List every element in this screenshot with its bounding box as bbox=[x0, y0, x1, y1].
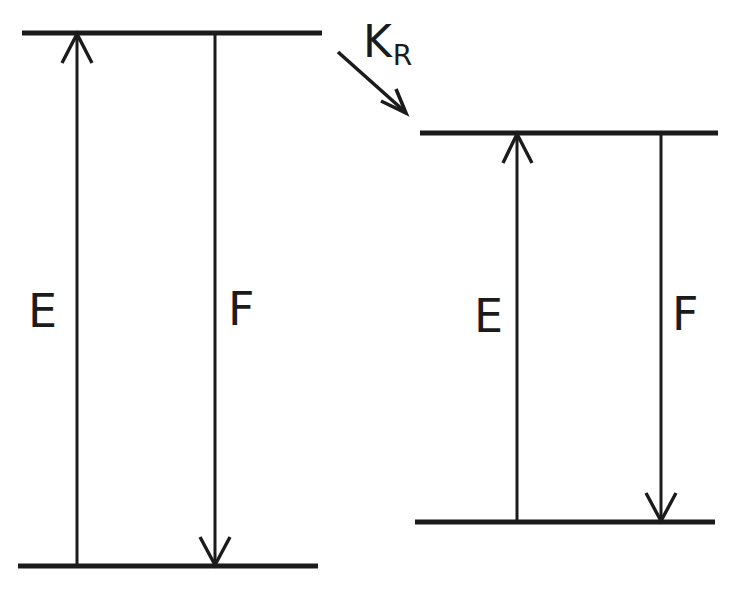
rate-constant-subscript: R bbox=[392, 39, 412, 72]
left-emission-arrow bbox=[200, 33, 230, 565]
diagram-canvas bbox=[0, 0, 737, 596]
right-emission-label: F bbox=[672, 291, 698, 337]
rate-constant-symbol: K bbox=[363, 16, 392, 67]
right-excitation-label: E bbox=[474, 293, 503, 339]
right-excitation-arrow bbox=[503, 134, 532, 522]
left-emission-label: F bbox=[228, 286, 254, 332]
rate-constant-label: KR bbox=[363, 20, 412, 70]
left-excitation-label: E bbox=[28, 288, 57, 334]
left-excitation-arrow bbox=[62, 34, 92, 566]
left-energy-system bbox=[18, 33, 322, 566]
energy-level-diagram-figure: E F KR E F bbox=[0, 0, 737, 596]
